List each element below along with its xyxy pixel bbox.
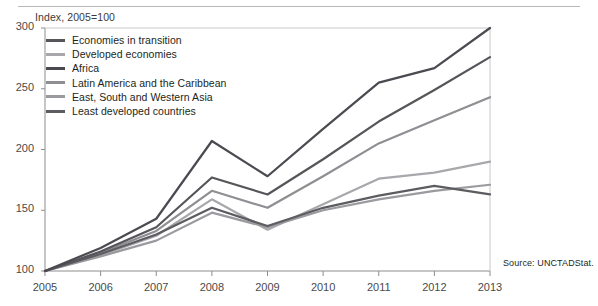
x-axis-tick-label: 2006 <box>81 281 121 293</box>
legend-item: East, South and Western Asia <box>46 90 226 104</box>
x-axis-tick-label: 2011 <box>359 281 399 293</box>
y-axis-tick-label: 250 <box>4 81 34 93</box>
legend-color-swatch <box>46 95 65 98</box>
legend-item-label: Least developed countries <box>72 105 196 117</box>
legend-item-label: Economies in transition <box>72 34 182 46</box>
chart-legend: Economies in transitionDeveloped economi… <box>46 33 226 118</box>
legend-color-swatch <box>46 67 65 70</box>
legend-color-swatch <box>46 81 65 84</box>
y-axis-tick-label: 150 <box>4 202 34 214</box>
legend-item-label: East, South and Western Asia <box>72 91 213 103</box>
legend-item: Least developed countries <box>46 104 226 118</box>
y-axis-tick-label: 300 <box>4 20 34 32</box>
y-axis-tick-label: 200 <box>4 142 34 154</box>
x-axis-tick-label: 2007 <box>136 281 176 293</box>
legend-color-swatch <box>46 53 65 56</box>
legend-color-swatch <box>46 39 65 42</box>
x-axis-tick-label: 2005 <box>25 281 65 293</box>
x-axis-tick-label: 2012 <box>414 281 454 293</box>
x-axis-tick-label: 2010 <box>303 281 343 293</box>
x-axis-tick-label: 2008 <box>192 281 232 293</box>
legend-color-swatch <box>46 110 65 113</box>
legend-item-label: Africa <box>72 62 99 74</box>
legend-item: Africa <box>46 61 226 75</box>
legend-item: Developed economies <box>46 47 226 61</box>
legend-item-label: Developed economies <box>72 48 177 60</box>
legend-item-label: Latin America and the Caribbean <box>72 77 226 89</box>
legend-item: Economies in transition <box>46 33 226 47</box>
y-axis-tick-label: 100 <box>4 263 34 275</box>
legend-item: Latin America and the Caribbean <box>46 76 226 90</box>
x-axis-tick-label: 2013 <box>470 281 510 293</box>
source-label: Source: UNCTADStat. <box>503 258 594 268</box>
x-axis-tick-label: 2009 <box>248 281 288 293</box>
